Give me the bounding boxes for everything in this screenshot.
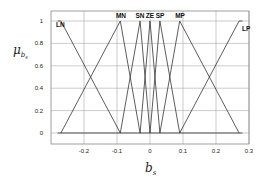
mf-label-sn: SN: [135, 12, 144, 19]
y-tick: 0.6: [35, 63, 44, 69]
mf-label-ze: ZE: [146, 12, 155, 19]
membership-chart: 00.20.40.60.81 -0.2-0.100.10.20.3 LNMNSN…: [0, 0, 269, 183]
mf-label-ln: LN: [56, 21, 65, 28]
mf-sn: [120, 21, 150, 133]
x-tick: 0.2: [212, 148, 221, 154]
x-tick: 0.3: [245, 148, 254, 154]
grid-lines: [51, 11, 249, 144]
x-tick-labels: -0.2-0.100.10.20.3: [79, 148, 254, 154]
mf-lp: [180, 21, 243, 133]
mf-mp: [160, 21, 239, 133]
mf-ln: [58, 21, 121, 133]
x-axis-label: bs: [145, 161, 157, 177]
x-tick: 0: [148, 148, 152, 154]
y-tick: 0.8: [35, 40, 44, 46]
mf-sp: [150, 21, 180, 133]
membership-labels: LNMNSNZESPMPLP: [56, 12, 251, 32]
y-tick: 1: [40, 18, 44, 24]
y-tick-labels: 00.20.40.60.81: [35, 18, 44, 136]
y-axis-label: μbs: [13, 43, 28, 60]
mf-mn: [61, 21, 140, 133]
x-tick: -0.2: [79, 148, 90, 154]
mf-label-mp: MP: [175, 12, 185, 19]
x-tick: 0.1: [179, 148, 188, 154]
x-tick: -0.1: [112, 148, 123, 154]
y-tick: 0.2: [35, 108, 44, 114]
y-tick: 0: [40, 130, 44, 136]
y-tick: 0.4: [35, 85, 44, 91]
mf-label-mn: MN: [116, 12, 126, 19]
mf-label-sp: SP: [156, 12, 165, 19]
mf-label-lp: LP: [242, 25, 251, 32]
